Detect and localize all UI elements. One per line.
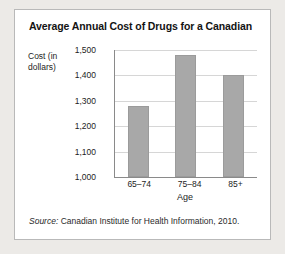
bar [223,75,244,177]
bar [128,106,149,177]
source-label: Source: [29,216,58,226]
x-axis-label: Age [114,192,256,202]
source-note: Source: Canadian Institute for Health In… [29,216,239,226]
y-axis-ticks: 1,5001,4001,3001,2001,1001,000 [74,50,100,177]
plot-canvas [114,50,257,178]
x-tick-label: 65–74 [127,179,151,189]
y-tick-label: 1,200 [75,121,96,131]
x-tick-label: 85+ [228,179,242,189]
x-axis-ticks: 65–7475–8485+ [114,179,256,189]
bar [175,55,196,177]
y-tick-label: 1,300 [75,96,96,106]
x-tick-label: 75–84 [178,179,202,189]
plot-area: 1,5001,4001,3001,2001,1001,000 65–7475–8… [74,50,256,198]
page-title: Average Annual Cost of Drugs for a Canad… [29,20,261,33]
y-axis-label: Cost (in dollars) [28,51,72,72]
bar-series [115,50,257,177]
y-tick-label: 1,400 [75,70,96,80]
source-value: Canadian Institute for Health Informatio… [58,216,239,226]
y-tick-label: 1,100 [75,147,96,157]
y-tick-label: 1,500 [75,45,96,55]
chart-card: Average Annual Cost of Drugs for a Canad… [14,9,271,240]
y-tick-label: 1,000 [75,172,96,182]
